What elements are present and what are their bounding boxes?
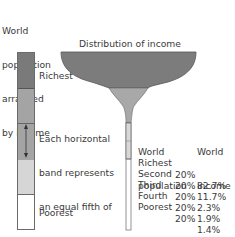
- table-row: Poorest 20% 1.4%: [0, 190, 12, 237]
- row-label: Richest: [138, 157, 172, 168]
- row-population: 20%: [175, 191, 195, 202]
- row-income: 11.7%: [197, 191, 226, 202]
- row-income: 1.9%: [197, 213, 220, 224]
- row-population: 20%: [175, 169, 195, 180]
- row-label: Poorest: [138, 201, 172, 212]
- row-label: Third: [138, 179, 161, 190]
- header-line: World: [197, 146, 231, 157]
- row-population: 20%: [175, 202, 195, 213]
- header-line: World: [138, 146, 187, 157]
- row-population: 20%: [175, 213, 195, 224]
- row-income: 1.4%: [197, 224, 220, 235]
- row-population: 20%: [175, 180, 195, 191]
- row-label: Second: [138, 168, 172, 179]
- row-income: 82.7%: [197, 180, 226, 191]
- row-income: 2.3%: [197, 202, 220, 213]
- row-label: Fourth: [138, 190, 168, 201]
